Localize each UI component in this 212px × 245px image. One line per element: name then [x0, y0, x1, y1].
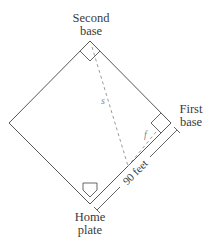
- first-base-label-line2: base: [172, 116, 210, 129]
- home-plate-label-line2: plate: [64, 224, 116, 237]
- home-plate-label: Home plate: [64, 211, 116, 237]
- first-base-label: First base: [172, 103, 210, 129]
- variable-f-label: f: [144, 129, 147, 140]
- distance-s-dashed-line: [92, 47, 128, 166]
- second-base-label: Second base: [64, 12, 118, 38]
- dimension-line-part1: [97, 187, 120, 210]
- diamond-outline: [9, 41, 171, 204]
- first-base-right-angle-marker: [151, 113, 161, 133]
- home-plate-icon: [83, 183, 97, 197]
- baseball-diamond-diagram: 90 feet Second base First base Home plat…: [0, 0, 212, 245]
- second-base-right-angle-marker: [80, 51, 100, 61]
- distance-label: 90 feet: [120, 157, 150, 187]
- second-base-label-line2: base: [64, 25, 118, 38]
- variable-s-label: s: [101, 95, 105, 106]
